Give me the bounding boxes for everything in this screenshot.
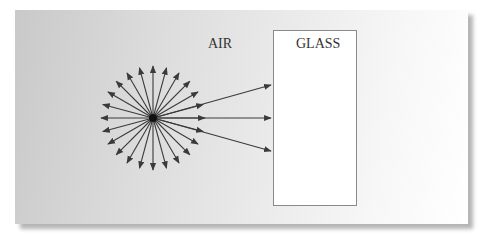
ray-arrow bbox=[103, 105, 153, 119]
ray-arrow bbox=[153, 68, 167, 118]
ray-arrow bbox=[140, 118, 154, 168]
incident-ray-arrow bbox=[153, 118, 271, 151]
ray-arrow bbox=[140, 68, 154, 118]
light-source-point bbox=[149, 114, 157, 122]
incident-ray-arrow bbox=[153, 85, 271, 118]
ray-arrow bbox=[103, 118, 153, 132]
light-rays bbox=[0, 0, 484, 235]
ray-arrow bbox=[153, 118, 167, 168]
